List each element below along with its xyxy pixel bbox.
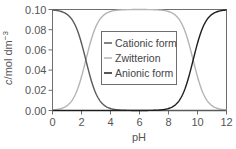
y-tick-label: 0.10: [25, 4, 46, 16]
y-axis-ticks: 0.000.020.040.060.080.10: [25, 4, 52, 117]
legend-item-anionic: Anionic form: [104, 67, 174, 79]
species-distribution-chart: 0.000.020.040.060.080.10 024681012 pH c/…: [0, 0, 236, 149]
y-axis-label-exponent: −3: [1, 31, 10, 41]
x-tick-label: 6: [136, 116, 142, 128]
x-tick-label: 12: [220, 116, 232, 128]
x-axis-label: pH: [132, 131, 146, 143]
x-tick-label: 0: [49, 116, 55, 128]
x-tick-label: 4: [107, 116, 113, 128]
x-axis-ticks: 024681012: [49, 111, 232, 128]
legend-label-cationic: Cationic form: [115, 37, 177, 49]
legend-item-cationic: Cationic form: [104, 37, 177, 49]
legend-label-anionic: Anionic form: [115, 67, 174, 79]
y-tick-label: 0.02: [25, 84, 46, 96]
y-axis-label: c/mol dm−3: [1, 31, 14, 85]
y-tick-label: 0.04: [25, 64, 46, 76]
y-axis-label-unit: /mol dm: [2, 40, 14, 79]
y-tick-label: 0.00: [25, 105, 46, 117]
x-tick-label: 2: [78, 116, 84, 128]
legend-label-zwitterion: Zwitterion: [115, 52, 161, 64]
x-tick-label: 10: [191, 116, 203, 128]
y-tick-label: 0.08: [25, 24, 46, 36]
legend: Cationic form Zwitterion Anionic form: [102, 32, 178, 85]
x-tick-label: 8: [165, 116, 171, 128]
y-tick-label: 0.06: [25, 44, 46, 56]
